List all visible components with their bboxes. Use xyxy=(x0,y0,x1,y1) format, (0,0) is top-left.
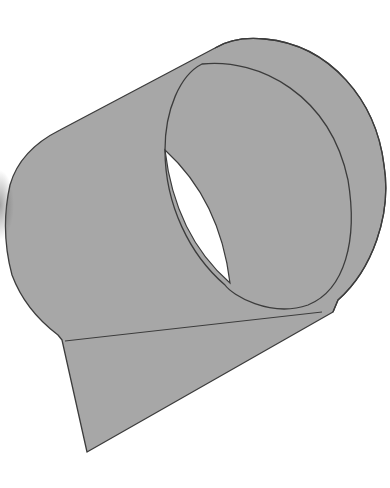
edge-shadow xyxy=(0,170,14,240)
tube-diagram xyxy=(0,0,390,488)
figure-canvas xyxy=(0,0,390,488)
